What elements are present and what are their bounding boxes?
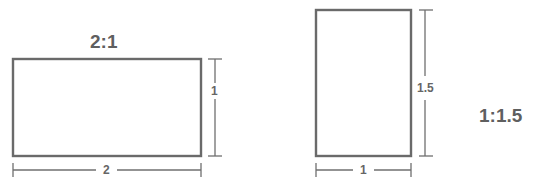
landscape-width-label: 2 <box>96 164 117 176</box>
portrait-rectangle <box>316 10 411 156</box>
diagram-canvas <box>0 0 550 188</box>
portrait-height-label: 1.5 <box>416 76 435 100</box>
portrait-ratio-label: 1:1.5 <box>479 106 522 125</box>
portrait-width-label: 1 <box>353 164 374 176</box>
landscape-height-dimension <box>208 59 222 156</box>
landscape-rectangle <box>13 59 201 156</box>
landscape-height-label: 1 <box>210 83 219 99</box>
landscape-ratio-label: 2:1 <box>90 32 117 51</box>
